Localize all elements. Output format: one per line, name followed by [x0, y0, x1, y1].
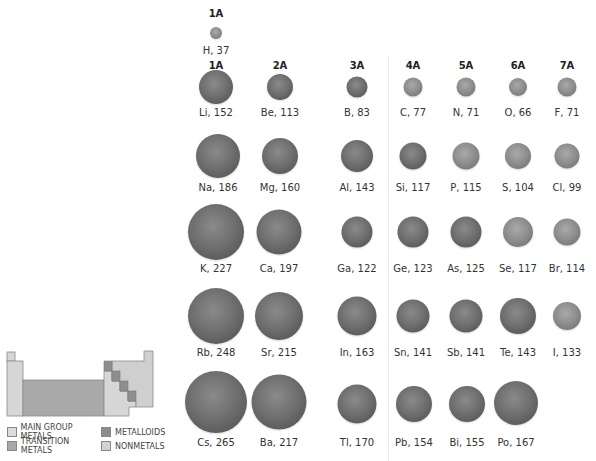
atom-sphere-rb: [188, 288, 244, 344]
atom-label-n: N, 71: [453, 107, 480, 118]
atom-sphere-te: [500, 298, 536, 334]
group-header-2a: 2A: [273, 60, 288, 71]
group-header-3a: 3A: [350, 60, 365, 71]
legend-nonmetals: NONMETALS: [101, 441, 165, 451]
main-group-metals-swatch: [7, 427, 17, 437]
group-header-1a-top: 1A: [209, 8, 224, 19]
atom-label-cs: Cs, 265: [197, 437, 235, 448]
atom-sphere-i: [553, 302, 581, 330]
atom-label-s: S, 104: [502, 182, 534, 193]
atom-label-na: Na, 186: [198, 182, 237, 193]
atom-label-sb: Sb, 141: [447, 347, 485, 358]
atom-sphere-sn: [397, 300, 430, 333]
atom-sphere-bi: [449, 386, 485, 422]
atom-label-tl: Tl, 170: [340, 437, 374, 448]
atom-label-sr: Sr, 215: [261, 347, 297, 358]
legend-transition-metals: TRANSITION METALS: [7, 437, 101, 455]
atom-sphere-be: [267, 74, 293, 100]
atom-sphere-cs: [185, 371, 247, 433]
atom-label-rb: Rb, 248: [197, 347, 236, 358]
atom-sphere-h: [210, 27, 222, 39]
atom-sphere-si: [400, 143, 427, 170]
atom-label-br: Br, 114: [549, 263, 585, 274]
atom-sphere-in: [338, 297, 377, 336]
atom-sphere-sr: [255, 292, 303, 340]
nonmetals-swatch: [101, 441, 111, 451]
atom-label-al: Al, 143: [339, 182, 374, 193]
group-header-6a: 6A: [511, 60, 526, 71]
column-divider: [388, 55, 389, 461]
atom-sphere-mg: [262, 138, 298, 174]
atom-label-cl: Cl, 99: [553, 182, 582, 193]
atom-label-po: Po, 167: [497, 437, 534, 448]
atom-label-li: Li, 152: [199, 107, 233, 118]
atom-sphere-k: [188, 204, 244, 260]
atom-sphere-br: [554, 219, 581, 246]
atom-sphere-tl: [338, 385, 377, 424]
atom-label-ba: Ba, 217: [260, 437, 298, 448]
atom-label-o: O, 66: [505, 107, 532, 118]
legend-row-2: TRANSITION METALS NONMETALS: [7, 437, 165, 455]
atom-label-ga: Ga, 122: [337, 263, 376, 274]
atom-sphere-b: [347, 77, 368, 98]
legend-label-nonmetals: NONMETALS: [115, 442, 165, 451]
atom-label-as: As, 125: [447, 263, 485, 274]
group-header-5a: 5A: [459, 60, 474, 71]
atom-sphere-pb: [396, 386, 432, 422]
atom-sphere-o: [509, 78, 527, 96]
atom-sphere-p: [453, 143, 480, 170]
atom-sphere-li: [199, 70, 233, 104]
atom-label-p: P, 115: [450, 182, 481, 193]
atom-label-f: F, 71: [555, 107, 580, 118]
atom-sphere-ca: [257, 210, 302, 255]
atom-label-te: Te, 143: [500, 347, 536, 358]
atom-sphere-s: [505, 143, 531, 169]
atom-label-se: Se, 117: [499, 263, 537, 274]
metalloids-swatch: [101, 427, 111, 437]
atom-sphere-se: [503, 217, 533, 247]
group-header-4a: 4A: [406, 60, 421, 71]
mini-periodic-table: [0, 345, 170, 420]
atom-sphere-ba: [252, 375, 307, 430]
atom-sphere-po: [494, 381, 538, 425]
atom-label-sn: Sn, 141: [394, 347, 432, 358]
atom-label-b: B, 83: [344, 107, 370, 118]
atom-sphere-sb: [450, 300, 483, 333]
atom-label-in: In, 163: [340, 347, 375, 358]
atom-label-ge: Ge, 123: [393, 263, 432, 274]
atom-sphere-as: [451, 217, 482, 248]
atom-label-be: Be, 113: [261, 107, 299, 118]
legend-label-metalloids: METALLOIDS: [115, 428, 165, 437]
atom-label-bi: Bi, 155: [449, 437, 484, 448]
legend-label-transition-metals: TRANSITION METALS: [21, 437, 101, 455]
atom-sphere-cl: [555, 144, 580, 169]
atom-label-c: C, 77: [400, 107, 426, 118]
atom-sphere-na: [196, 134, 240, 178]
atom-sphere-c: [404, 78, 423, 97]
transition-metals-swatch: [7, 441, 17, 451]
group-header-7a: 7A: [560, 60, 575, 71]
atom-sphere-ge: [398, 217, 429, 248]
atom-label-ca: Ca, 197: [260, 263, 299, 274]
atom-label-pb: Pb, 154: [395, 437, 433, 448]
atom-label-i: I, 133: [553, 347, 581, 358]
atom-sphere-ga: [342, 217, 373, 248]
legend-metalloids: METALLOIDS: [101, 427, 165, 437]
atom-label-mg: Mg, 160: [260, 182, 300, 193]
atom-label-k: K, 227: [200, 263, 232, 274]
atom-sphere-al: [341, 140, 373, 172]
atom-sphere-f: [558, 78, 577, 97]
atom-label-h: H, 37: [203, 45, 230, 56]
atom-label-si: Si, 117: [396, 182, 431, 193]
atom-sphere-n: [457, 78, 476, 97]
